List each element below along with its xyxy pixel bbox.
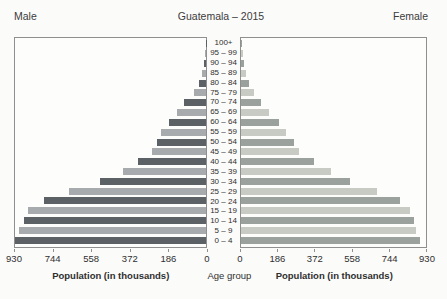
male-bar (194, 89, 206, 96)
female-bar (241, 40, 242, 47)
male-bar-row (15, 118, 206, 128)
female-bar (241, 109, 269, 116)
male-bar (100, 178, 206, 185)
female-bar-row (241, 78, 426, 88)
age-group-label: 50 – 54 (207, 137, 240, 147)
axis-tick-label: 372 (122, 253, 138, 264)
male-bar-row (15, 127, 206, 137)
female-bar (241, 217, 414, 224)
age-group-label: 55 – 59 (207, 127, 240, 137)
axis-tick-label: 744 (45, 253, 61, 264)
age-group-label: 90 – 94 (207, 58, 240, 68)
male-bar-row (15, 147, 206, 157)
female-bar (241, 237, 420, 244)
female-bar-row (241, 176, 426, 186)
age-group-label: 25 – 29 (207, 187, 240, 197)
female-bar-row (241, 118, 426, 128)
male-bar (184, 99, 206, 106)
axis-tick-label: 558 (344, 253, 360, 264)
male-bar (177, 109, 206, 116)
male-bar (157, 139, 206, 146)
female-bar (241, 158, 314, 165)
female-bar-row (241, 49, 426, 59)
female-bar (241, 178, 350, 185)
age-group-label: 15 – 19 (207, 206, 240, 216)
male-bar-row (15, 88, 206, 98)
figure-title: Guatemala – 2015 (14, 10, 428, 22)
female-bar-row (241, 196, 426, 206)
axis-tick-mark (207, 249, 208, 252)
male-bar-row (15, 68, 206, 78)
male-bar (202, 70, 206, 77)
age-group-label: 10 – 14 (207, 216, 240, 226)
female-bar-row (241, 137, 426, 147)
female-bar-row (241, 108, 426, 118)
female-bar-row (241, 186, 426, 196)
female-bar (241, 50, 243, 57)
male-bar-row (15, 78, 206, 88)
male-bar (28, 207, 206, 214)
age-group-label: 60 – 64 (207, 117, 240, 127)
female-bar-row (241, 216, 426, 226)
axis-tick-label: 186 (269, 253, 285, 264)
axis-tick-label: 744 (382, 253, 398, 264)
female-bar-row (241, 157, 426, 167)
male-bar-row (15, 39, 206, 49)
male-bar-row (15, 157, 206, 167)
female-bar-row (241, 88, 426, 98)
axis-titles: Population (in thousands) Age group Popu… (14, 270, 428, 281)
female-bar (241, 188, 377, 195)
male-bar-row (15, 108, 206, 118)
axis-tick-mark (389, 249, 390, 252)
male-bar (152, 148, 206, 155)
female-bar (241, 197, 400, 204)
age-group-label: 100+ (207, 38, 240, 48)
female-bar (241, 148, 299, 155)
age-group-label: 70 – 74 (207, 97, 240, 107)
male-bar-row (15, 206, 206, 216)
female-bar-row (241, 147, 426, 157)
axis-tick-label: 372 (307, 253, 323, 264)
axis-tick-mark (352, 249, 353, 252)
female-bar (241, 60, 244, 67)
age-group-axis: 100+95 – 9990 – 9485 – 8980 – 8475 – 797… (207, 37, 240, 248)
axis-tick-label: 930 (419, 253, 435, 264)
male-bar-row (15, 196, 206, 206)
age-group-label: 20 – 24 (207, 197, 240, 207)
male-bar-row (15, 98, 206, 108)
female-bar-row (241, 59, 426, 69)
age-group-label: 80 – 84 (207, 78, 240, 88)
axis-tick-label: 0 (237, 253, 242, 264)
female-axis-title: Population (in thousands) (240, 270, 428, 281)
female-bar-row (241, 167, 426, 177)
female-bar-row (241, 206, 426, 216)
age-group-label: 65 – 69 (207, 107, 240, 117)
female-bar-row (241, 127, 426, 137)
age-group-label: 30 – 34 (207, 177, 240, 187)
female-bar-row (241, 39, 426, 49)
male-bar (169, 119, 206, 126)
age-group-label: 85 – 89 (207, 68, 240, 78)
female-plot (240, 37, 427, 248)
axis-tick-mark (426, 249, 427, 252)
female-bar (241, 89, 254, 96)
male-bar-row (15, 59, 206, 69)
figure-header: Male Guatemala – 2015 Female (14, 10, 428, 22)
axis-tick-mark (130, 249, 131, 252)
age-group-label: 75 – 79 (207, 88, 240, 98)
age-group-label: 5 – 9 (207, 226, 240, 236)
axis-tick-label: 186 (160, 253, 176, 264)
male-bar (204, 60, 206, 67)
male-bar (123, 168, 206, 175)
axis-tick-label: 558 (83, 253, 99, 264)
age-group-label: 0 – 4 (207, 236, 240, 246)
male-bar-row (15, 176, 206, 186)
female-bar (241, 99, 261, 106)
male-bar (69, 188, 206, 195)
female-bar (241, 129, 286, 136)
male-bar-row (15, 137, 206, 147)
male-bar-row (15, 235, 206, 245)
female-bar (241, 119, 279, 126)
female-bar-row (241, 98, 426, 108)
axis-tick-mark (314, 249, 315, 252)
